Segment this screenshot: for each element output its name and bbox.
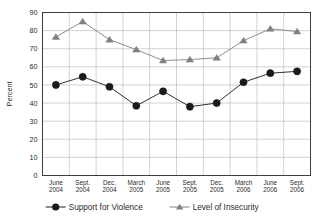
x-axis-tick-label: March2005 [128, 179, 146, 193]
data-point-marker [267, 70, 274, 77]
y-axis-title: Percent [5, 82, 14, 107]
data-point-marker [52, 81, 59, 88]
legend-label: Level of Insecurity [193, 203, 260, 212]
data-point-marker [294, 68, 301, 75]
data-point-marker [240, 79, 247, 86]
y-axis-tick-label: 40 [30, 99, 38, 108]
data-point-marker [106, 83, 113, 90]
y-axis-tick-label: 90 [30, 8, 38, 17]
y-axis-tick-label: 70 [30, 44, 38, 53]
x-axis-tick-label: March2006 [235, 179, 253, 193]
x-axis-tick-label: Sept.2005 [183, 179, 198, 193]
y-axis-tick-label: 80 [30, 26, 38, 35]
x-axis-tick-label: June2006 [263, 179, 278, 193]
x-axis-tick-label: June2004 [49, 179, 64, 193]
x-axis-tick-label: Dec.2005 [210, 179, 225, 193]
y-axis-tick-label: 60 [30, 62, 38, 71]
chart-container: 0102030405060708090 June2004Sept.2004Dec… [0, 0, 321, 217]
legend-circle-icon [52, 203, 59, 210]
data-point-marker [160, 88, 167, 95]
data-point-marker [186, 103, 193, 110]
y-axis-tick-label: 20 [30, 135, 38, 144]
y-axis-tick-label: 30 [30, 117, 38, 126]
x-axis-tick-label: June2005 [156, 179, 171, 193]
y-axis-tick-label: 50 [30, 81, 38, 90]
y-axis-tick-label: 0 [34, 171, 38, 180]
legend-label: Support for Violence [69, 203, 143, 212]
data-point-marker [79, 73, 86, 80]
line-chart: 0102030405060708090 June2004Sept.2004Dec… [0, 0, 321, 217]
data-point-marker [213, 99, 220, 106]
x-axis-tick-label: Dec.2004 [102, 179, 117, 193]
x-axis-tick-label: Sept.2006 [290, 179, 305, 193]
y-axis-tick-label: 10 [30, 153, 38, 162]
data-point-marker [133, 102, 140, 109]
x-axis-tick-label: Sept.2004 [75, 179, 90, 193]
